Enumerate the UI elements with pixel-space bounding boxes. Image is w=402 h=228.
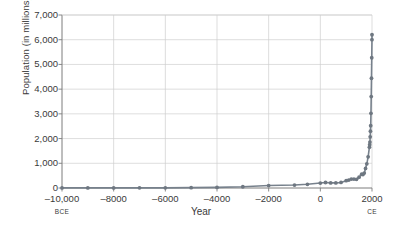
population-chart: Population (in millions) 01,0002,0003,00… xyxy=(0,0,402,228)
x-tick-label: 2000 xyxy=(337,194,402,204)
tick-marks xyxy=(59,15,373,192)
gridlines xyxy=(62,15,372,188)
era-label-ce: CE xyxy=(352,208,392,215)
era-label-bce: BCE xyxy=(42,208,82,215)
